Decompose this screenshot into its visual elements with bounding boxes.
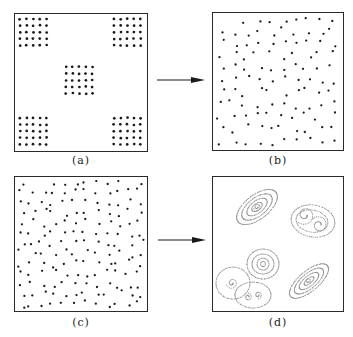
random-dots (15, 177, 149, 313)
dispersed-dots (213, 13, 345, 152)
panel-d-vortices (212, 176, 344, 312)
panel-c-label: (c) (51, 316, 111, 329)
arrow-right-icon (155, 74, 207, 86)
panel-a-clusters (14, 13, 148, 152)
panel-b-dispersed (212, 12, 344, 151)
panel-c-random (14, 176, 148, 312)
cluster-dots (15, 14, 149, 153)
panel-a-label: (a) (51, 154, 111, 167)
arrow-right-icon (156, 234, 208, 246)
panel-d-label: (d) (248, 316, 308, 329)
vortex-structures (213, 177, 345, 313)
panel-b-label: (b) (248, 154, 308, 167)
